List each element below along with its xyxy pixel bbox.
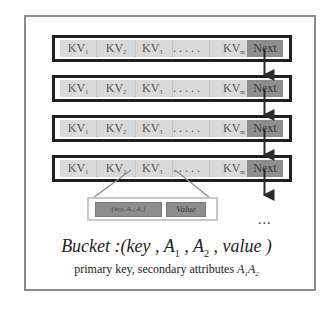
key-attributes-cell: (key, A₁, A₂) [95, 202, 162, 217]
bucket-caption: primary key, secondary attributes A1A2 [0, 262, 333, 278]
continuation-ellipsis: ... [258, 212, 272, 228]
zoom-connector-left [93, 170, 131, 198]
value-cell: Value [166, 202, 206, 217]
zoom-connector-right [175, 170, 210, 198]
kv-detail-box: (key, A₁, A₂) Value [87, 197, 218, 221]
bucket-formula: Bucket :(key , A1 , A2 , value ) [0, 236, 333, 259]
